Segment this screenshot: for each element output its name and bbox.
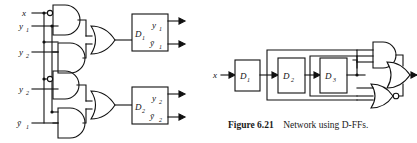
right-input-label-x: x	[212, 70, 217, 80]
and-gate-2	[58, 43, 85, 73]
input-label-y2-lower: y	[18, 84, 23, 94]
ff-r1-sub: 1	[247, 77, 250, 83]
ff-d2-out-q-label: y	[151, 93, 156, 103]
ff-r3-sub: 3	[332, 77, 336, 83]
ff-d1-out-qbar-sub: 1	[159, 44, 162, 50]
arrow-d1-out-qbar	[179, 41, 185, 47]
input-label-y2-upper-sub: 2	[26, 53, 29, 59]
or-gate-right	[387, 62, 410, 88]
figure-caption: Figure 6.21 Network using D-FFs.	[228, 120, 417, 130]
arrow-d1-out-q	[179, 18, 185, 24]
ff-d1-out-q-label: y	[151, 20, 156, 30]
ff-d1-input-sub: 1	[142, 35, 145, 41]
or-gate-2	[91, 91, 115, 119]
junction-dot-y1-and4	[50, 110, 53, 113]
feedback-loop-inner-stub	[353, 60, 357, 62]
left-circuit-diagram: x y 1 y 2 y 2 ȳ 1	[0, 0, 210, 143]
figure-page: x y 1 y 2 y 2 ȳ 1	[0, 0, 417, 143]
wire-nor-r1-out	[399, 84, 403, 96]
inversion-bubble-and3	[47, 76, 52, 81]
and-gate-3	[53, 71, 79, 99]
ff-r1-label: D	[239, 71, 247, 81]
arrow-x-input	[229, 72, 235, 78]
input-label-y1-bar-sub: 1	[26, 124, 29, 130]
arrow-d2-out-qbar	[179, 114, 185, 120]
ff-d2-out-q-sub: 2	[159, 99, 162, 105]
arrow-r2-to-r3	[314, 72, 320, 78]
arrow-r1-to-r2	[272, 72, 278, 78]
input-label-y1-sub: 1	[26, 27, 29, 33]
or-gate-1	[91, 26, 115, 54]
and-gate-1	[53, 5, 80, 35]
ff-r3-label: D	[324, 71, 332, 81]
inversion-bubble-and1	[47, 10, 52, 15]
ff-r2-sub: 2	[291, 77, 294, 83]
and-gate-4	[58, 108, 85, 138]
ff-d1-input-label: D	[134, 29, 142, 39]
figure-caption-text: Network using D-FFs.	[283, 120, 368, 130]
input-label-y2-upper: y	[18, 47, 23, 57]
flipflop-box-r1	[235, 60, 260, 91]
ff-r2-label: D	[282, 71, 290, 81]
input-label-y1-bar: ȳ	[16, 118, 22, 128]
figure-caption-label: Figure 6.21	[228, 120, 274, 130]
ff-d1-out-q-sub: 1	[159, 26, 162, 32]
ff-d2-input-sub: 2	[142, 108, 145, 114]
input-label-x: x	[21, 8, 26, 18]
wire-and1-out	[78, 20, 86, 36]
junction-dot-x-and3	[42, 77, 45, 80]
arrow-output-right	[411, 72, 417, 78]
input-label-y1: y	[18, 21, 23, 31]
junction-dot-x-and2	[42, 40, 45, 43]
input-label-y2-lower-sub: 2	[26, 90, 29, 96]
arrow-d2-out-q	[179, 91, 185, 97]
junction-dot-x-top	[42, 11, 45, 14]
ff-d2-out-qbar-sub: 2	[159, 117, 162, 123]
inversion-bubble-nor-right	[393, 93, 399, 99]
ff-d2-input-label: D	[134, 102, 142, 112]
